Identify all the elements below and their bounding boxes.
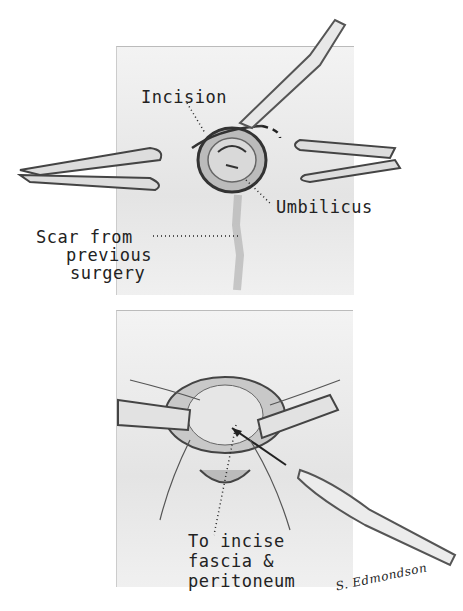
umbilicus-label: Umbilicus (276, 198, 373, 217)
illustration (0, 0, 463, 611)
scar-label-line3: surgery (70, 264, 145, 283)
scalpel-bottom (298, 470, 455, 565)
scar-drawing (236, 195, 240, 290)
incision-label: Incision (141, 88, 227, 107)
instruction-label-line2: fascia & (188, 552, 274, 571)
retractor-right (295, 140, 400, 182)
scalpel-top (240, 20, 345, 128)
instruction-label-line1: To incise (188, 532, 285, 551)
retractor-left (20, 148, 161, 190)
planned-incision (262, 126, 280, 138)
instruction-label-line3: peritoneum (188, 572, 295, 591)
incision-leader (187, 103, 205, 133)
